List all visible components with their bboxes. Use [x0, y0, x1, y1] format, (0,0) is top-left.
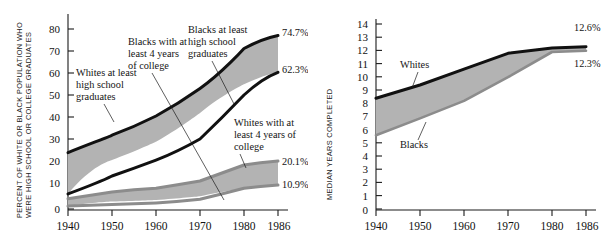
left-xtick-1970: 1970: [189, 220, 212, 232]
annotation-blacks-college-line2: least 4 years: [128, 48, 179, 59]
right-end-value-labels: 12.6% 12.3%: [574, 22, 601, 69]
right-ytick-8: 8: [363, 97, 369, 109]
left-ytick-0: 0: [55, 203, 61, 215]
right-xtick-1960: 1960: [453, 220, 476, 232]
left-college-band: [68, 161, 278, 206]
left-x-tick-labels: 1940 1950 1960 1970 1980 1986: [57, 220, 291, 232]
right-chart-svg: MEDIAN YEARS COMPLETED 14 13 12 11 10 9 …: [308, 0, 616, 251]
left-y-axis-title: PERCENT OF WHITE OR BLACK POPULATION WHO…: [15, 22, 33, 218]
right-ytick-4: 4: [363, 150, 369, 162]
right-xtick-1940: 1940: [365, 220, 388, 232]
annotation-whites-highschool: Whites at least high school graduates: [76, 67, 137, 122]
right-ytick-13: 13: [357, 31, 369, 43]
right-chart-panel: MEDIAN YEARS COMPLETED 14 13 12 11 10 9 …: [308, 0, 616, 251]
end-value-blacks-median: 12.3%: [574, 58, 601, 69]
right-xtick-1950: 1950: [409, 220, 432, 232]
left-chart-panel: PERCENT OF WHITE OR BLACK POPULATION WHO…: [0, 0, 308, 251]
right-xtick-1986: 1986: [576, 220, 599, 232]
annotation-whites-label: Whites: [400, 59, 429, 70]
right-ytick-5: 5: [363, 137, 369, 149]
annotation-blacks: Blacks: [400, 122, 428, 150]
annotation-blacks-label: Blacks: [400, 139, 428, 150]
right-ytick-1: 1: [363, 190, 369, 202]
left-xtick-1940: 1940: [57, 220, 80, 232]
left-ytick-80: 80: [49, 23, 61, 35]
right-x-axis: [376, 210, 596, 216]
right-xtick-1980: 1980: [541, 220, 564, 232]
right-ytick-0: 0: [363, 204, 369, 216]
annotation-whites-college-line1: Whites with at: [234, 117, 294, 128]
right-ytick-3: 3: [363, 163, 369, 175]
left-college-band-fill: [68, 161, 278, 206]
left-ytick-60: 60: [49, 67, 61, 79]
annotation-whites-college-line2: least 4 years of: [234, 129, 297, 140]
left-y-tick-labels: 80 70 60 50 40 30 20 10 0: [49, 23, 61, 215]
right-xtick-1970: 1970: [497, 220, 520, 232]
left-ytick-20: 20: [49, 155, 61, 167]
left-chart-svg: PERCENT OF WHITE OR BLACK POPULATION WHO…: [0, 0, 308, 251]
end-value-blacks-college: 10.9%: [282, 179, 308, 190]
annotation-whites-highschool-line3: graduates: [76, 91, 115, 102]
left-x-axis: [68, 210, 288, 216]
left-xtick-1960: 1960: [145, 220, 168, 232]
left-y-axis-title-line2: WERE HIGH SCHOOL OR COLLEGE GRADUATES: [24, 32, 33, 218]
annotation-blacks-college-line3: of college: [128, 60, 169, 71]
left-ytick-30: 30: [49, 133, 61, 145]
right-y-tick-labels: 14 13 12 11 10 9 8 7 6 5 4 3 2 1 0: [357, 18, 369, 216]
left-end-value-labels: 74.7% 62.3% 20.1% 10.9%: [282, 27, 308, 190]
right-ytick-14: 14: [357, 18, 369, 30]
left-ytick-70: 70: [49, 45, 61, 57]
right-ytick-11: 11: [357, 58, 368, 70]
chart-figure: PERCENT OF WHITE OR BLACK POPULATION WHO…: [0, 0, 616, 251]
left-y-axis-title-line1: PERCENT OF WHITE OR BLACK POPULATION WHO: [15, 22, 24, 218]
left-ytick-40: 40: [49, 111, 61, 123]
left-xtick-1980: 1980: [233, 220, 256, 232]
annotation-blacks-college-line1: Blacks with at: [128, 36, 187, 47]
right-ytick-9: 9: [363, 84, 369, 96]
right-ytick-2: 2: [363, 176, 369, 188]
right-y-axis-title: MEDIAN YEARS COMPLETED: [325, 89, 334, 200]
left-ytick-10: 10: [49, 177, 61, 189]
right-x-tick-labels: 1940 1950 1960 1970 1980 1986: [365, 220, 599, 232]
annotation-blacks-highschool-line3: graduates: [188, 48, 227, 59]
right-ytick-10: 10: [357, 71, 369, 83]
end-value-whites-college: 20.1%: [282, 156, 308, 167]
end-value-whites-median: 12.6%: [574, 22, 601, 33]
left-ytick-50: 50: [49, 89, 61, 101]
left-xtick-1986: 1986: [268, 220, 291, 232]
left-xtick-1950: 1950: [101, 220, 124, 232]
right-ytick-12: 12: [357, 44, 368, 56]
annotation-blacks-highschool-line2: high school: [188, 36, 236, 47]
right-ytick-6: 6: [363, 124, 369, 136]
annotation-whites-highschool-line2: high school: [76, 79, 124, 90]
end-value-blacks-highschool: 62.3%: [282, 64, 308, 75]
right-ytick-7: 7: [363, 110, 369, 122]
end-value-whites-highschool: 74.7%: [282, 27, 308, 38]
annotation-blacks-highschool-line1: Blacks at least: [188, 24, 248, 35]
annotation-whites-college-line3: college: [234, 141, 264, 152]
